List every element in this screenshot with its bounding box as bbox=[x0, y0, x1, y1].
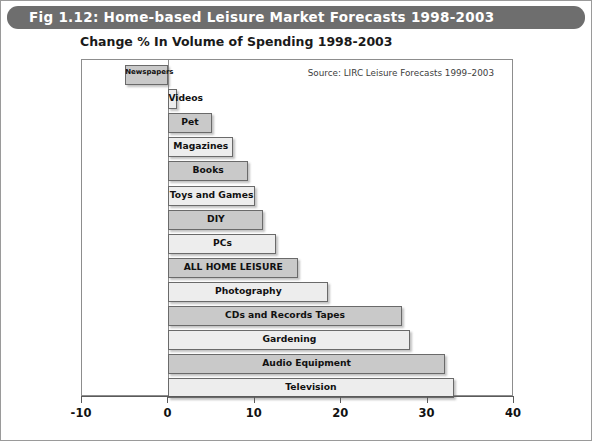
bar-row: ALL HOME LEISURE bbox=[82, 258, 514, 284]
bar-label: DIY bbox=[168, 213, 263, 224]
tick-mark bbox=[81, 396, 82, 403]
bar-label: PCs bbox=[168, 237, 276, 248]
bar-row: DIY bbox=[82, 210, 514, 236]
tick-mark bbox=[427, 396, 428, 403]
tick-label: 10 bbox=[246, 406, 262, 420]
bar-row: Gardening bbox=[82, 330, 514, 356]
tick-mark bbox=[167, 396, 168, 403]
bar-row: CDs and Records Tapes bbox=[82, 306, 514, 332]
figure-card: Fig 1.12: Home-based Leisure Market Fore… bbox=[0, 0, 592, 441]
bar-label: Books bbox=[168, 164, 247, 175]
tick-mark bbox=[340, 396, 341, 403]
tick-label: 40 bbox=[505, 406, 521, 420]
bar-row: PCs bbox=[82, 234, 514, 260]
bar-row: Newspapers bbox=[82, 65, 514, 91]
tick-label: -10 bbox=[71, 406, 92, 420]
bar-label: Gardening bbox=[168, 333, 410, 344]
figure-title-bar: Fig 1.12: Home-based Leisure Market Fore… bbox=[7, 6, 585, 29]
bar-row: Magazines bbox=[82, 137, 514, 163]
bar-label: Toys and Games bbox=[168, 189, 254, 200]
tick-mark bbox=[254, 396, 255, 403]
bar-row: Television bbox=[82, 378, 514, 404]
bar-label: ALL HOME LEISURE bbox=[168, 261, 298, 272]
bar-label: Videos bbox=[168, 92, 177, 103]
x-axis-line bbox=[81, 396, 513, 397]
bar-label: Photography bbox=[168, 285, 328, 296]
tick-mark bbox=[513, 396, 514, 403]
bar-row: Books bbox=[82, 161, 514, 187]
bar-label: Audio Equipment bbox=[168, 357, 444, 368]
bar-row: Pet bbox=[82, 113, 514, 139]
plot-area: Source: LIRC Leisure Forecasts 1999–2003… bbox=[81, 59, 513, 396]
bar-label: Pet bbox=[168, 116, 211, 127]
tick-label: 0 bbox=[163, 406, 171, 420]
bar-row: Toys and Games bbox=[82, 186, 514, 212]
bar-label: Television bbox=[168, 381, 453, 392]
tick-label: 20 bbox=[332, 406, 348, 420]
tick-label: 30 bbox=[419, 406, 435, 420]
bar-label: Newspapers bbox=[125, 68, 168, 76]
bar-label: CDs and Records Tapes bbox=[168, 309, 401, 320]
bar-row: Photography bbox=[82, 282, 514, 308]
bar-row: Videos bbox=[82, 89, 514, 115]
chart-subtitle: Change % In Volume of Spending 1998-2003 bbox=[80, 34, 392, 49]
figure-title: Fig 1.12: Home-based Leisure Market Fore… bbox=[29, 9, 494, 25]
bar-label: Magazines bbox=[168, 140, 233, 151]
bar-row: Audio Equipment bbox=[82, 354, 514, 380]
